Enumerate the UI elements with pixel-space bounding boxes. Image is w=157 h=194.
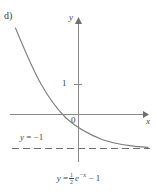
y-axis [75,17,82,162]
plot-canvas [0,0,157,194]
y-axis-label: y [69,13,73,22]
equation-lhs: y [57,173,61,183]
fraction-denominator: 2 [69,178,74,185]
x-axis-label: x [146,117,150,126]
exponential-decay-figure: d) y x 0 1 y = −1 y =12e−x − 1 [0,0,157,194]
equation-equals: = [63,173,68,183]
curve-exponential [16,28,149,147]
asymptote-label: y = −1 [20,133,43,142]
asymptote-label-value: = −1 [24,132,43,142]
equation-caption: y =12e−x − 1 [0,172,157,186]
equation-tail: − 1 [89,173,101,183]
x-axis [10,111,149,118]
part-label: d) [4,11,12,21]
equation-fraction: 12 [69,172,74,186]
y-tick-label-1: 1 [62,79,67,88]
origin-label: 0 [71,116,76,125]
equation-exponent: −x [79,171,86,178]
